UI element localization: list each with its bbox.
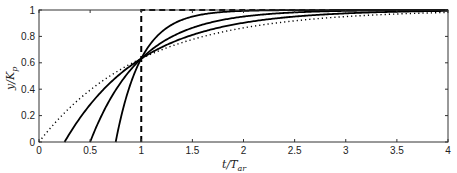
y-axis-label: y/Kp <box>4 67 19 91</box>
x-tick-label: 1.5 <box>185 145 199 156</box>
series-line-3 <box>116 10 448 142</box>
y-tick-label: 0 <box>29 137 35 148</box>
step-response-chart: 00.511.522.533.54 00.20.40.60.81 t/Tar y… <box>0 0 457 173</box>
x-axis-label: t/Tar <box>222 158 247 173</box>
axes-box <box>39 10 448 142</box>
x-tick-label: 0.5 <box>83 145 97 156</box>
x-tick-label: 2 <box>241 145 247 156</box>
y-tick-label: 0.4 <box>21 84 35 95</box>
x-axis-ticks: 00.511.522.533.54 <box>36 10 451 156</box>
x-tick-label: 4 <box>445 145 451 156</box>
y-tick-label: 0.8 <box>21 31 35 42</box>
x-tick-label: 3 <box>343 145 349 156</box>
series-line-2 <box>90 10 448 142</box>
x-tick-label: 2.5 <box>288 145 302 156</box>
y-tick-label: 0.2 <box>21 110 35 121</box>
y-tick-label: 0.6 <box>21 57 35 68</box>
series-line-1 <box>65 11 448 142</box>
axes <box>39 10 448 142</box>
x-tick-label: 0 <box>36 145 42 156</box>
x-tick-label: 3.5 <box>390 145 404 156</box>
x-tick-label: 1 <box>138 145 144 156</box>
y-tick-label: 1 <box>29 5 35 16</box>
series-line-0 <box>39 12 448 142</box>
plot-area <box>39 10 448 142</box>
y-axis-ticks: 00.20.40.60.81 <box>21 5 448 148</box>
